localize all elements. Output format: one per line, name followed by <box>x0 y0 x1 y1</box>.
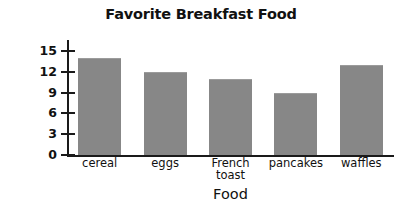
bar-waffles <box>340 65 383 155</box>
y-tick-label-12: 12 <box>31 67 57 77</box>
plot-area: 03691215 <box>67 44 394 155</box>
y-tick-12 <box>61 71 75 73</box>
bar-french-toast <box>209 79 252 155</box>
y-tick-label-3: 3 <box>31 129 57 139</box>
bar-pancakes <box>274 93 317 155</box>
x-tick-label-eggs: eggs <box>132 158 197 170</box>
y-tick-label-15: 15 <box>31 46 57 56</box>
y-tick-3 <box>61 133 75 135</box>
y-tick-9 <box>61 92 75 94</box>
x-tick-label-waffles: waffles <box>329 158 394 170</box>
y-tick-15 <box>61 50 75 52</box>
x-tick-label-cereal: cereal <box>67 158 132 170</box>
y-tick-0 <box>61 154 75 156</box>
y-axis-line <box>67 40 69 155</box>
x-axis-label: Food <box>67 186 394 202</box>
bar-cereal <box>78 58 121 155</box>
y-tick-6 <box>61 112 75 114</box>
x-tick-label-french-toast: Frenchtoast <box>198 158 263 181</box>
y-tick-label-6: 6 <box>31 108 57 118</box>
bar-eggs <box>144 72 187 155</box>
bar-chart: Favorite Breakfast Food Number of Studen… <box>0 0 402 211</box>
y-tick-label-0: 0 <box>31 150 57 160</box>
y-tick-label-9: 9 <box>31 88 57 98</box>
x-tick-label-pancakes: pancakes <box>263 158 328 170</box>
chart-title: Favorite Breakfast Food <box>0 6 402 22</box>
